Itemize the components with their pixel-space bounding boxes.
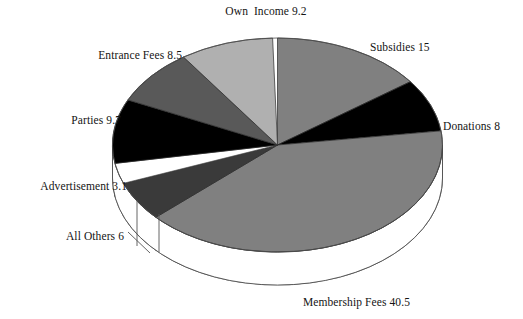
slice-label-advertisement: Advertisement 3.1 <box>0 180 127 193</box>
pie-chart-figure: Own Income 9.2 Subsidies 15 Donations 8 … <box>0 0 523 319</box>
pie-top-face <box>113 38 443 252</box>
slice-label-subsidies: Subsidies 15 <box>370 41 520 54</box>
slice-label-donations: Donations 8 <box>443 120 523 133</box>
slice-label-parties: Parties 9.7 <box>0 114 121 127</box>
slice-label-all-others: All Others 6 <box>0 230 124 243</box>
slice-label-entrance-fees: Entrance Fees 8.5 <box>0 49 182 62</box>
slice-label-own-income: Own Income 9.2 <box>186 5 346 18</box>
slice-label-membership-fees: Membership Fees 40.5 <box>130 296 410 309</box>
